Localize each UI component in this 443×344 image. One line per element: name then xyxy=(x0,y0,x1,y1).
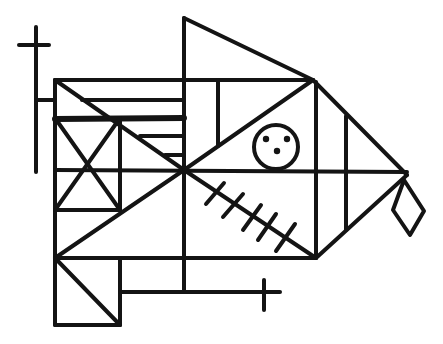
left-cross-icon xyxy=(19,27,54,172)
bottom-box xyxy=(55,258,120,325)
bottom-cross-icon xyxy=(120,280,280,310)
hatched-diagonal xyxy=(184,170,316,258)
fish-drawing xyxy=(0,0,443,344)
diamond-icon xyxy=(393,180,424,235)
x-box xyxy=(55,118,120,210)
center-horizontal xyxy=(55,170,407,172)
drawing-canvas xyxy=(0,0,443,344)
eye-icon xyxy=(254,125,298,169)
